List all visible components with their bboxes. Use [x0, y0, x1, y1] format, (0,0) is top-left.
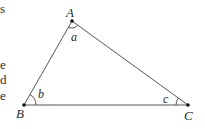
- angle-arc-c: [176, 98, 178, 105]
- vertex-dot-c: [186, 103, 190, 107]
- vertex-label-a: A: [65, 5, 74, 20]
- vertex-label-b: B: [16, 106, 24, 121]
- edge-ab: [24, 21, 72, 105]
- angle-label-c: c: [163, 92, 169, 106]
- triangle-diagram: s e d e A B C a b c: [0, 0, 205, 129]
- angle-label-a: a: [71, 30, 77, 44]
- edge-ca: [72, 21, 188, 105]
- vertex-label-c: C: [184, 108, 193, 123]
- angle-label-b: b: [38, 87, 44, 101]
- triangle-svg: A B C a b c: [0, 0, 205, 129]
- angle-arc-b: [30, 95, 36, 105]
